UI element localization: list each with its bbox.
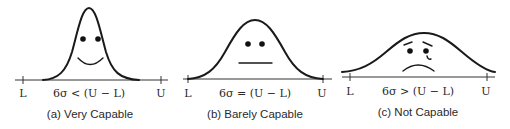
tear-icon bbox=[427, 56, 431, 59]
panel-caption: (b) Barely Capable bbox=[207, 108, 303, 120]
right-eye-icon bbox=[423, 48, 429, 54]
lower-limit-label: L bbox=[184, 87, 192, 100]
upper-limit-label: U bbox=[481, 85, 490, 98]
left-eye-icon bbox=[407, 48, 413, 54]
process-capability-diagram: L 6σ < (U − L) U (a) Very Capable L 6σ =… bbox=[0, 0, 510, 129]
left-eyebrow-icon bbox=[404, 42, 412, 45]
wide-distribution-curve bbox=[342, 33, 495, 72]
right-eye-icon bbox=[259, 41, 265, 47]
right-eye-icon bbox=[95, 36, 101, 42]
right-eyebrow-icon bbox=[423, 42, 432, 46]
capability-relation: 6σ < (U − L) bbox=[53, 87, 125, 100]
upper-limit-label: U bbox=[156, 87, 165, 100]
panel-caption: (a) Very Capable bbox=[47, 108, 133, 120]
upper-limit-label: U bbox=[317, 87, 326, 100]
capability-relation: 6σ = (U − L) bbox=[219, 87, 291, 100]
panel-caption: (c) Not Capable bbox=[378, 106, 459, 118]
panel-not-capable: L 6σ > (U − L) U (c) Not Capable bbox=[342, 33, 495, 118]
smile-icon bbox=[78, 58, 103, 65]
lower-limit-label: L bbox=[346, 85, 354, 98]
left-eye-icon bbox=[80, 36, 86, 42]
narrow-distribution-curve bbox=[43, 8, 139, 80]
panel-barely-capable: L 6σ = (U − L) U (b) Barely Capable bbox=[183, 20, 332, 120]
panel-very-capable: L 6σ < (U − L) U (a) Very Capable bbox=[15, 8, 168, 120]
left-eye-icon bbox=[245, 41, 251, 47]
capability-relation: 6σ > (U − L) bbox=[382, 85, 454, 98]
matched-distribution-curve bbox=[188, 20, 323, 79]
frown-icon bbox=[403, 65, 434, 71]
lower-limit-label: L bbox=[19, 87, 27, 100]
